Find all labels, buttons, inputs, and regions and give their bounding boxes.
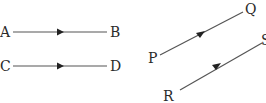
label-s: S: [261, 32, 266, 48]
segment-pq: P Q: [148, 1, 256, 66]
arrow-icon: [196, 31, 205, 38]
label-c: C: [0, 58, 11, 74]
segment-ab: A B: [0, 24, 120, 40]
label-b: B: [110, 24, 120, 40]
segment-cd: C D: [0, 58, 121, 74]
label-p: P: [148, 50, 157, 66]
arrow-icon: [57, 63, 64, 70]
label-q: Q: [245, 1, 256, 17]
label-r: R: [163, 88, 174, 103]
arrow-icon: [212, 63, 221, 70]
line-rs: [180, 43, 262, 90]
arrow-icon: [57, 29, 64, 36]
label-d: D: [110, 58, 121, 74]
vector-diagram: A B C D P Q R S: [0, 0, 266, 103]
label-a: A: [0, 24, 11, 40]
segment-rs: R S: [163, 32, 266, 103]
